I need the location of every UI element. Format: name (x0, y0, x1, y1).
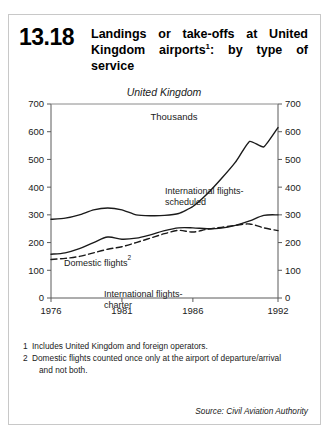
svg-text:0: 0 (39, 292, 44, 303)
footnote-number: 2 (23, 352, 32, 364)
svg-text:400: 400 (28, 182, 44, 193)
chart-units-label: Thousands (150, 111, 197, 122)
chart-area: United Kingdom Thousands 010020030040050… (9, 84, 320, 332)
svg-text:600: 600 (28, 126, 44, 137)
figure-header: 13.18 Landings or take-offs at United Ki… (9, 15, 320, 80)
figure-number: 13.18 (19, 25, 91, 49)
series-label-international-charter: International flights- (104, 289, 183, 299)
series-label-international-scheduled-line2: scheduled (165, 197, 206, 207)
x-axis-labels: 1976198119861992 (40, 305, 288, 316)
series-label-international-scheduled: International flights- (165, 186, 244, 196)
svg-text:700: 700 (28, 98, 44, 109)
footnotes-list: 1 Includes United Kingdom and foreign op… (9, 340, 320, 376)
series-label-international-charter-line2: charter (104, 300, 132, 310)
svg-text:700: 700 (285, 98, 301, 109)
figure-panel: 13.18 Landings or take-offs at United Ki… (8, 14, 321, 425)
series-line-1 (51, 215, 278, 254)
figure-title-line1: Landings or take-offs at United (91, 27, 308, 41)
y-axis-labels-right: 0100200300400500600700 (285, 98, 301, 303)
svg-text:400: 400 (285, 182, 301, 193)
svg-text:300: 300 (28, 209, 44, 220)
figure-title: Landings or take-offs at United Kingdom … (91, 25, 308, 74)
footnote-item: 1 Includes United Kingdom and foreign op… (23, 340, 308, 352)
footnote-text: Includes United Kingdom and foreign oper… (32, 340, 308, 352)
footnote-continuation: and not both. (23, 364, 308, 376)
svg-text:500: 500 (285, 154, 301, 165)
svg-text:100: 100 (285, 265, 301, 276)
chart-region-title: United Kingdom (127, 86, 202, 98)
y-axis-labels-left: 0100200300400500600700 (28, 98, 44, 303)
footnote-number: 1 (23, 340, 32, 352)
svg-text:100: 100 (28, 265, 44, 276)
figure-title-line2a: Kingdom airports (91, 43, 206, 57)
svg-text:1976: 1976 (40, 305, 61, 316)
source-note: Source: Civil Aviation Authority (195, 406, 308, 416)
svg-text:600: 600 (285, 126, 301, 137)
svg-text:200: 200 (28, 237, 44, 248)
series-label-domestic: Domestic flights2 (64, 254, 132, 269)
svg-text:200: 200 (285, 237, 301, 248)
footnote-item: 2 Domestic flights counted once only at … (23, 352, 308, 364)
line-chart: United Kingdom Thousands 010020030040050… (9, 84, 320, 332)
series-line-2 (51, 224, 278, 260)
svg-text:300: 300 (285, 209, 301, 220)
svg-text:500: 500 (28, 154, 44, 165)
figure-title-line2b: : by type of (210, 43, 308, 57)
svg-text:0: 0 (285, 292, 290, 303)
svg-text:1992: 1992 (267, 305, 288, 316)
svg-text:1986: 1986 (182, 305, 203, 316)
footnote-text: Domestic flights counted once only at th… (32, 352, 308, 364)
figure-title-line3: service (91, 59, 134, 73)
